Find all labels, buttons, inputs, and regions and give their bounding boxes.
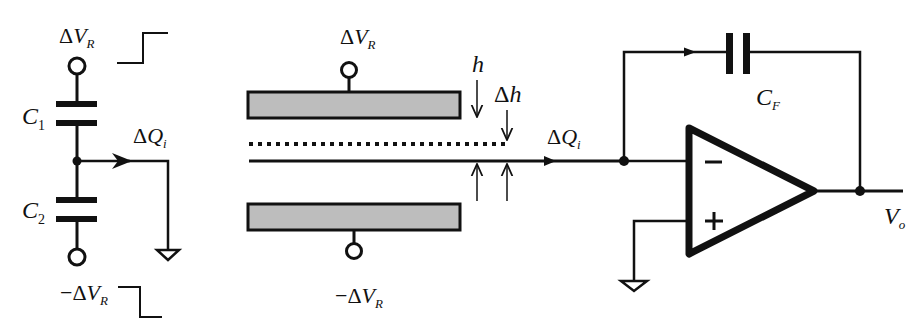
- capacitor-c2-icon: [56, 197, 97, 222]
- top-terminal-icon: [69, 58, 85, 74]
- label-bottom-voltage: −ΔVR: [60, 280, 108, 308]
- label-top-voltage: ΔVR: [59, 23, 95, 51]
- label-feedback-cap: CF: [756, 84, 781, 113]
- op-amp-triangle-icon: [689, 128, 814, 254]
- capacitive-divider: [56, 33, 179, 317]
- label-plate-bottom-voltage: −ΔVR: [335, 283, 383, 311]
- capacitor-c1-icon: [56, 101, 97, 126]
- step-down-waveform-icon: [118, 287, 162, 317]
- parallel-plate-sensor: [248, 63, 624, 259]
- label-charge-left: ΔQi: [133, 123, 167, 151]
- label-gap-h: h: [472, 51, 484, 77]
- bottom-plate-terminal-icon: [347, 244, 362, 259]
- label-c1: C1: [22, 103, 45, 133]
- circuit-diagram: ΔVR C1 ΔQi C2 −ΔVR ΔVR h Δh: [0, 0, 924, 330]
- bottom-electrode: [248, 204, 460, 230]
- top-electrode: [248, 92, 460, 118]
- label-charge-right: ΔQi: [547, 124, 581, 152]
- bottom-terminal-icon: [69, 249, 85, 265]
- output-junction-dot-icon: [855, 186, 865, 196]
- amp-ground-icon: [621, 281, 647, 291]
- feedback-capacitor-icon: [726, 33, 750, 74]
- ground-icon: [157, 250, 179, 260]
- step-up-waveform-icon: [117, 33, 168, 63]
- charge-amplifier: [619, 33, 903, 291]
- top-plate-terminal-icon: [342, 63, 357, 78]
- label-delta-h: Δh: [494, 81, 521, 107]
- label-plate-top-voltage: ΔVR: [340, 24, 376, 52]
- label-c2: C2: [22, 197, 45, 227]
- label-output-voltage: Vo: [884, 203, 906, 232]
